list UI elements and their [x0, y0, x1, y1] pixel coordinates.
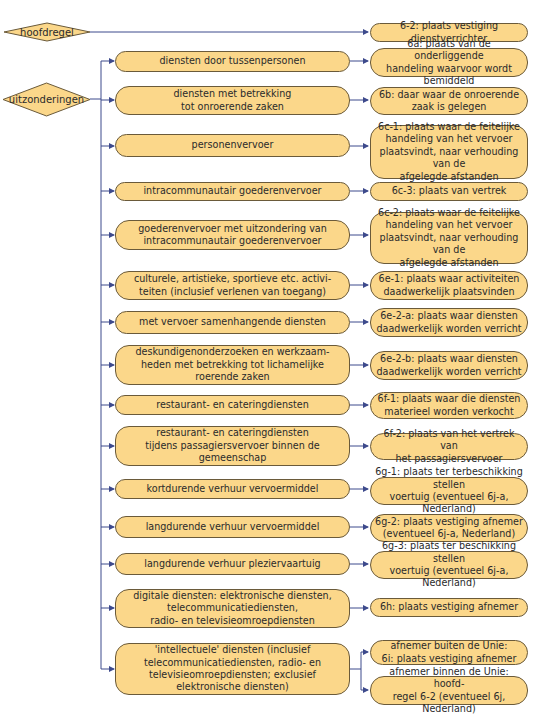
decision-label: hoofdregel — [20, 27, 74, 38]
service-box: langdurende verhuur pleziervaartuig — [115, 553, 350, 575]
service-box: goederenvervoer met uitzondering van int… — [115, 220, 350, 250]
service-box: restaurant- en cateringdiensten — [115, 395, 350, 415]
rule-box: 6b: daar waar de onroerende zaak is gele… — [370, 87, 528, 115]
service-box: 'intellectuele' diensten (inclusief tele… — [115, 643, 350, 695]
rule-box: 6g-2: plaats vestiging afnemer (eventuee… — [370, 514, 528, 542]
rule-box: 6g-1: plaats ter terbeschikking stellen … — [370, 477, 528, 505]
flowchart: hoofdregel uitzonderingen 6-2: plaats ve… — [0, 0, 542, 715]
rule-box-inside-eu: afnemer binnen de Unie: hoofd- regel 6-2… — [370, 676, 528, 705]
rule-box: 6e-2-a: plaats waar diensten daadwerkeli… — [370, 308, 528, 337]
rule-box: 6a: plaats van de onderliggende handelin… — [370, 48, 528, 77]
service-box: culturele, artistieke, sportieve etc. ac… — [115, 271, 350, 300]
service-box: diensten door tussenpersonen — [115, 51, 350, 72]
rule-box: 6e-1: plaats waar activiteiten daadwerke… — [370, 271, 528, 300]
rule-box-outside-eu: afnemer buiten de Unie: 6i: plaats vesti… — [370, 640, 528, 665]
rule-box: 6g-3: plaats ter beschikking stellen voe… — [370, 551, 528, 579]
service-box: diensten met betrekking tot onroerende z… — [115, 86, 350, 115]
rule-box: 6c-2: plaats waar de feitelijke handelin… — [370, 212, 528, 264]
service-box: personenvervoer — [115, 134, 350, 157]
service-box: langdurende verhuur vervoermiddel — [115, 516, 350, 538]
service-box: met vervoer samenhangende diensten — [115, 311, 350, 334]
service-box: restaurant- en cateringdiensten tijdens … — [115, 426, 350, 466]
service-box: intracommunautair goederenvervoer — [115, 182, 350, 201]
decision-label: uitzonderingen — [9, 94, 84, 105]
rule-box: 6h: plaats vestiging afnemer — [370, 598, 528, 617]
rule-box: 6c-3: plaats van vertrek — [370, 182, 528, 201]
service-box: deskundigenonderzoeken en werkzaam- hede… — [115, 345, 350, 385]
service-box: digitale diensten: elektronische dienste… — [115, 589, 350, 628]
decision-uitzonderingen: uitzonderingen — [2, 82, 91, 117]
rule-box: 6c-1: plaats waar de feitelijke handelin… — [370, 125, 528, 179]
rule-box: 6f-1: plaats waar die diensten materieel… — [370, 392, 528, 419]
decision-hoofdregel: hoofdregel — [3, 22, 91, 42]
service-box: kortdurende verhuur vervoermiddel — [115, 479, 350, 499]
rule-box: 6f-2: plaats van het vertrek van het pas… — [370, 433, 528, 460]
rule-box: 6e-2-b: plaats waar diensten daadwerkeli… — [370, 351, 528, 380]
